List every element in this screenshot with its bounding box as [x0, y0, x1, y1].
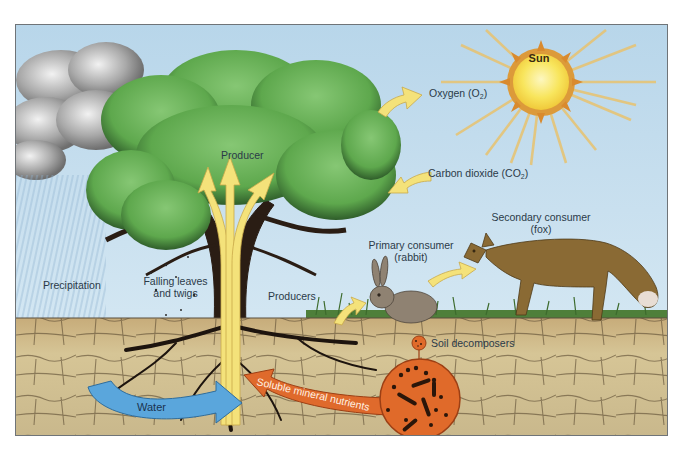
carbon-dioxide-label: Carbon dioxide (CO2) — [428, 167, 528, 183]
soil-decomposers-label: Soil decomposers — [431, 337, 514, 349]
oxygen-arrow — [378, 87, 422, 117]
fox-icon — [464, 233, 658, 320]
secondary-consumer-label: Secondary consumer (fox) — [486, 211, 596, 235]
soil — [16, 318, 668, 436]
sun-label: Sun — [519, 52, 559, 64]
producers-label: Producers — [268, 290, 316, 302]
falling-leaves-label: Falling leaves and twigs — [138, 275, 213, 299]
producer-label: Producer — [221, 149, 264, 161]
ecosystem-diagram: Sun Oxygen (O2) Carbon dioxide (CO2) Pro… — [15, 24, 668, 436]
primary-consumer-label: Primary consumer (rabbit) — [366, 239, 456, 263]
oxygen-label: Oxygen (O2) — [429, 87, 487, 103]
water-label: Water — [137, 401, 166, 413]
precipitation-label: Precipitation — [43, 279, 101, 291]
